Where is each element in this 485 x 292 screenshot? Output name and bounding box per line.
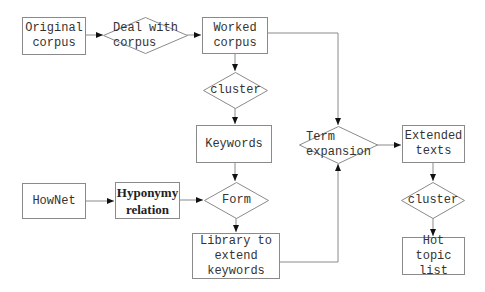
node-label: Hot topic list <box>403 234 464 279</box>
node-label: Keywords <box>205 137 263 152</box>
node-keywords: Keywords <box>196 125 272 163</box>
node-hot-topic-list: Hot topic list <box>402 237 465 275</box>
node-label: cluster <box>203 72 268 109</box>
flowchart-canvas: Original corpus Deal with corpus Worked … <box>0 0 485 292</box>
node-label: Original corpus <box>25 21 83 51</box>
node-original-corpus: Original corpus <box>22 17 86 55</box>
node-extended-texts: Extended texts <box>402 125 465 163</box>
node-label: Deal with corpus <box>103 17 188 54</box>
edge-library-to-term-expansion <box>280 164 338 262</box>
node-label: Extended texts <box>405 129 463 159</box>
node-worked-corpus: Worked corpus <box>202 17 268 54</box>
node-cluster-2: cluster <box>401 182 465 219</box>
node-term-expansion: Term expansion <box>299 126 378 164</box>
node-label: Library to extend keywords <box>200 234 272 279</box>
node-label: cluster <box>401 182 465 219</box>
node-library-to-extend-keywords: Library to extend keywords <box>192 233 280 279</box>
node-label: Hyponymy relation <box>117 184 178 218</box>
node-cluster-1: cluster <box>203 72 268 109</box>
node-label: Worked corpus <box>213 21 256 51</box>
node-hyponymy-relation: Hyponymy relation <box>115 182 180 219</box>
node-label: Term expansion <box>299 126 378 164</box>
node-label: Form <box>204 182 269 219</box>
node-hownet: HowNet <box>22 183 86 219</box>
edge-worked-to-term-expansion <box>268 33 338 125</box>
node-form: Form <box>204 182 269 219</box>
node-label: HowNet <box>32 194 75 209</box>
node-deal-with-corpus: Deal with corpus <box>103 17 188 54</box>
